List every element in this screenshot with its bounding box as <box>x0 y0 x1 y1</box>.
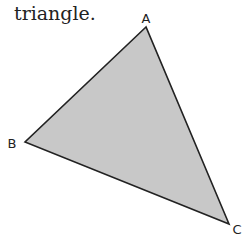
triangle-shape <box>25 27 229 224</box>
triangle-diagram: A B C <box>0 0 245 240</box>
vertex-label-b: B <box>8 136 17 151</box>
vertex-label-c: C <box>232 222 241 237</box>
vertex-label-a: A <box>142 11 151 26</box>
